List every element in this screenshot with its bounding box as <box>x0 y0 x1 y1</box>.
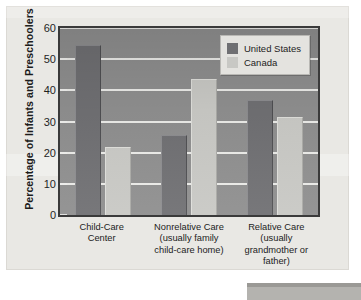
x-axis-category-labels: Child-CareCenterNonrelative Care(usually… <box>58 222 320 268</box>
x-axis-label-2: Relative Care(usuallygrandmother orfathe… <box>233 222 320 268</box>
tick-mark <box>60 27 67 29</box>
chart-figure: Percentage of Infants and Preschoolers 0… <box>0 0 361 300</box>
x-axis-label-line: Child-Care <box>59 222 144 233</box>
x-axis-label-line: father) <box>234 256 319 267</box>
tick-mark <box>60 58 67 60</box>
x-axis-label-line: Nonrelative Care <box>146 222 231 233</box>
tick-mark <box>60 89 67 91</box>
x-axis-label-line: Center <box>59 233 144 244</box>
legend-label-canada: Canada <box>244 57 277 68</box>
bar-canada <box>191 79 217 216</box>
gridline <box>60 27 318 29</box>
tick-mark <box>60 183 67 185</box>
y-axis-tick-label: 0 <box>18 209 56 221</box>
x-axis-label-line: Relative Care <box>234 222 319 233</box>
x-axis-label-line: (usually family <box>146 233 231 244</box>
chart-legend: United States Canada <box>220 35 310 75</box>
x-axis-label-0: Child-CareCenter <box>58 222 145 268</box>
x-axis-label-line: child-care home) <box>146 245 231 256</box>
x-axis-label-1: Nonrelative Care(usually familychild-car… <box>145 222 232 268</box>
y-axis-tick-labels: 0102030405060 <box>12 26 56 217</box>
tick-mark <box>60 121 67 123</box>
bar-united-states <box>75 45 101 215</box>
x-axis-label-line: (usually <box>234 233 319 244</box>
page-bottom-strip-cap <box>247 283 361 287</box>
y-axis-tick-label: 10 <box>18 178 56 190</box>
y-axis-tick-label: 50 <box>18 53 56 65</box>
bar-canada <box>277 117 303 215</box>
scan-artifact-band-top <box>6 6 349 18</box>
legend-swatch-icon-united-states <box>227 43 238 54</box>
y-axis-tick-label: 20 <box>18 147 56 159</box>
legend-item-canada: Canada <box>227 55 301 69</box>
legend-label-united-states: United States <box>244 43 301 54</box>
y-axis-tick-label: 40 <box>18 84 56 96</box>
tick-mark <box>60 214 67 216</box>
y-axis-tick-label: 30 <box>18 116 56 128</box>
bar-united-states <box>247 100 273 215</box>
y-axis-tick-label: 60 <box>18 22 56 34</box>
plot-area: United States Canada <box>58 26 320 217</box>
bar-united-states <box>161 135 187 215</box>
legend-swatch-icon-canada <box>227 57 238 68</box>
bar-canada <box>105 147 131 215</box>
tick-mark <box>60 152 67 154</box>
legend-item-united-states: United States <box>227 41 301 55</box>
x-axis-label-line: grandmother or <box>234 245 319 256</box>
